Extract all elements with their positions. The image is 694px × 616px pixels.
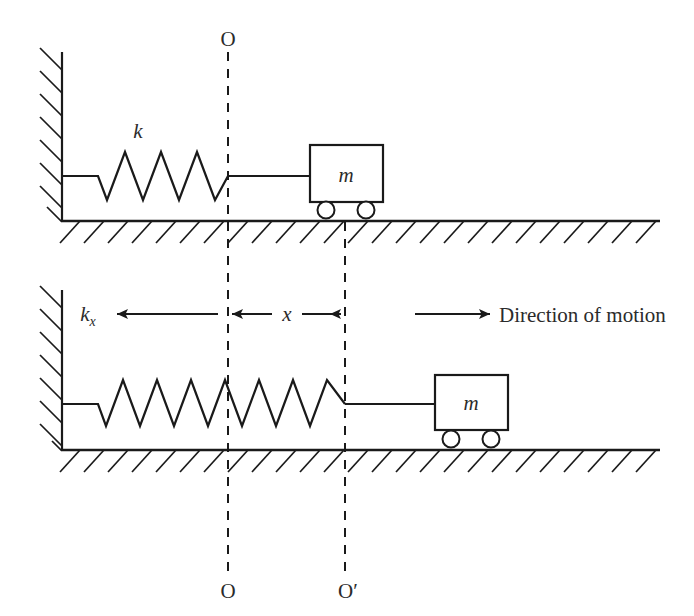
displacement-label: x bbox=[281, 302, 292, 326]
spring-force-subscript: x bbox=[89, 314, 97, 329]
spring-bottom bbox=[62, 380, 345, 426]
wall-bottom bbox=[40, 286, 62, 451]
ground-hatching-top bbox=[60, 221, 656, 243]
mass-label-top: m bbox=[338, 163, 353, 187]
annotation-row: kx x Direction of motion bbox=[80, 300, 666, 329]
spring-top bbox=[62, 152, 228, 200]
spring-constant-label: k bbox=[133, 119, 143, 143]
spring-mass-diagram: k m O O O′ kx x Direction of motion bbox=[0, 0, 694, 616]
wall-hatching-top bbox=[40, 48, 62, 222]
ground-hatching-bottom bbox=[60, 450, 656, 472]
origin-label-bottom-left: O bbox=[220, 579, 235, 603]
spring-force-label: kx bbox=[80, 302, 96, 329]
wall-hatching-bottom bbox=[40, 286, 62, 451]
diagram-canvas: k m O O O′ kx x Direction of motion bbox=[0, 0, 694, 616]
origin-label-bottom-right: O′ bbox=[338, 579, 358, 603]
equilibrium-panel: k m bbox=[40, 48, 660, 243]
wall-top bbox=[40, 48, 62, 222]
mass-label-bottom: m bbox=[463, 391, 478, 415]
origin-label-top: O bbox=[220, 27, 235, 51]
direction-of-motion-label: Direction of motion bbox=[499, 303, 666, 327]
ground-bottom bbox=[60, 450, 660, 472]
ground-top bbox=[60, 221, 660, 243]
